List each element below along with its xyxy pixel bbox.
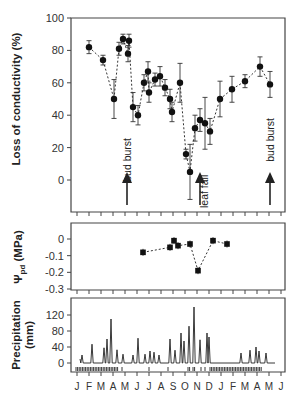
data-point <box>167 96 173 102</box>
month-label: J <box>75 381 80 392</box>
data-point <box>192 125 198 131</box>
bud-burst-label: bud burst <box>264 118 276 162</box>
month-label: O <box>181 381 189 392</box>
data-point <box>169 109 175 115</box>
data-point <box>145 68 151 74</box>
figure: 100806040200 Loss of conductivity (%) bu… <box>0 0 295 400</box>
data-point <box>100 57 106 63</box>
y-tick-label: -0.2 <box>45 266 64 278</box>
month-label: J <box>147 381 152 392</box>
data-point <box>171 238 177 244</box>
frost-day-markers <box>76 367 261 371</box>
data-point <box>157 73 163 79</box>
bud-burst-annotation-1: bud burst <box>121 138 133 205</box>
dashed-line <box>143 241 227 271</box>
data-point <box>187 241 193 247</box>
data-point <box>217 96 223 102</box>
month-label: F <box>230 381 236 392</box>
top-panel: 100806040200 Loss of conductivity (%) bu… <box>10 12 285 216</box>
data-point <box>125 50 131 56</box>
month-label: J <box>279 381 284 392</box>
y-tick-label: 0 <box>58 233 64 245</box>
data-point <box>229 86 235 92</box>
data-point <box>207 128 213 134</box>
data-point <box>202 120 208 126</box>
month-label: A <box>110 381 117 392</box>
month-label: M <box>121 381 129 392</box>
bottom-panel: 12080400 Precipitation (mm) JFMAMJJASOND… <box>10 298 285 392</box>
y-tick-label: 80 <box>52 44 64 56</box>
dashed-line <box>89 39 270 172</box>
bottom-y-axis-label-1: Precipitation <box>10 300 22 370</box>
month-labels: JFMAMJJASONDJFMAMJ <box>75 381 284 392</box>
y-tick-label: 120 <box>46 309 64 321</box>
y-tick-label: 0 <box>58 357 64 369</box>
water-potential-series <box>140 237 230 274</box>
y-tick-label: 80 <box>52 325 64 337</box>
up-arrow-icon <box>265 172 275 183</box>
data-point <box>86 44 92 50</box>
conductivity-series <box>86 34 273 199</box>
data-point <box>175 243 181 249</box>
month-label: J <box>135 381 140 392</box>
data-point <box>195 268 201 274</box>
data-point <box>146 89 152 95</box>
middle-y-axis-label: Ψpd (MPa) <box>12 230 27 284</box>
data-point <box>257 63 263 69</box>
data-point <box>130 104 136 110</box>
data-point <box>126 37 132 43</box>
y-tick-label: 40 <box>52 109 64 121</box>
month-label: M <box>97 381 105 392</box>
month-label: M <box>265 381 273 392</box>
middle-frame <box>71 223 285 290</box>
y-tick-label: 100 <box>46 12 64 24</box>
precipitation-series <box>80 307 275 363</box>
y-tick-label: 20 <box>52 142 64 154</box>
data-point <box>187 169 193 175</box>
month-label: F <box>86 381 92 392</box>
bottom-y-ticks: 12080400 <box>46 309 71 369</box>
top-frame <box>71 18 285 212</box>
y-tick-label: -0.3 <box>45 283 64 295</box>
month-label: M <box>241 381 249 392</box>
leaf-fall-annotation: leaf fall <box>195 172 210 208</box>
top-y-ticks: 100806040200 <box>46 12 71 186</box>
data-point <box>140 250 146 256</box>
bottom-y-axis-label-2: (mm) <box>23 321 35 349</box>
y-tick-label: 0 <box>58 174 64 186</box>
middle-panel: 0-0.1-0.2-0.3 Ψpd (MPa) <box>12 223 285 295</box>
y-tick-label: -0.1 <box>45 250 64 262</box>
precipitation-line <box>80 307 275 363</box>
data-point <box>135 112 141 118</box>
data-point <box>162 84 168 90</box>
top-y-axis-label: Loss of conductivity (%) <box>10 32 22 165</box>
data-point <box>177 80 183 86</box>
data-point <box>224 241 230 247</box>
data-point <box>120 36 126 42</box>
data-point <box>141 80 147 86</box>
month-label: D <box>205 381 212 392</box>
data-point <box>167 245 173 251</box>
month-label: A <box>158 381 165 392</box>
month-label: N <box>193 381 200 392</box>
month-label: A <box>254 381 261 392</box>
month-label: J <box>219 381 224 392</box>
middle-y-ticks: 0-0.1-0.2-0.3 <box>45 233 71 295</box>
data-point <box>116 46 122 52</box>
bud-burst-annotation-2: bud burst <box>264 118 276 205</box>
data-point <box>210 238 216 244</box>
month-label: S <box>170 381 177 392</box>
data-point <box>267 81 273 87</box>
y-tick-label: 40 <box>52 341 64 353</box>
data-point <box>111 96 117 102</box>
data-point <box>183 151 189 157</box>
data-point <box>242 78 248 84</box>
y-tick-label: 60 <box>52 77 64 89</box>
